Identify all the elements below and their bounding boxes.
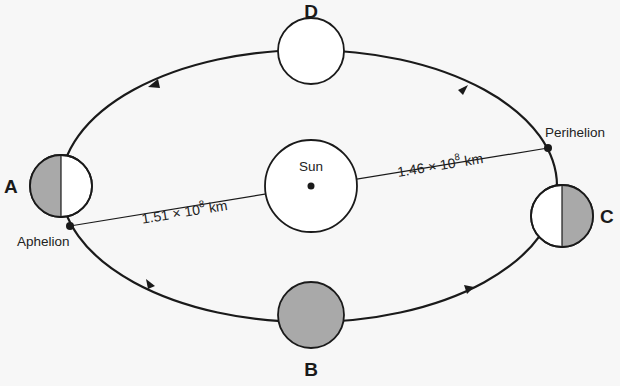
svg-text:1.46 × 108 km: 1.46 × 108 km [396, 147, 485, 180]
perihelion-distance-label: 1.46 × 108 km [396, 147, 485, 180]
svg-text:1.51 × 108 km: 1.51 × 108 km [140, 194, 229, 227]
perihelion-dot [544, 144, 552, 152]
label-b: B [304, 359, 318, 380]
orbit-diagram: Sun A C D B Aphelion Perihelion 1.51 × 1… [0, 0, 620, 386]
label-d: D [304, 1, 318, 22]
planet-d [278, 18, 344, 84]
perihelion-label: Perihelion [545, 125, 605, 140]
perihelion-distance-base: 1.46 × 10 [396, 155, 457, 180]
planet-b [278, 282, 344, 348]
aphelion-distance-base: 1.51 × 10 [141, 201, 202, 226]
planet-c [531, 185, 593, 247]
label-a: A [4, 176, 18, 197]
sun-center-dot [308, 183, 315, 190]
label-c: C [600, 206, 614, 227]
arrow-icon-top-right [458, 85, 468, 95]
sun-label: Sun [299, 159, 323, 174]
aphelion-distance-label: 1.51 × 108 km [140, 194, 229, 227]
planet-a [30, 155, 92, 217]
aphelion-dot [66, 222, 74, 230]
aphelion-label: Aphelion [17, 234, 70, 249]
perihelion-distance-unit: km [459, 150, 484, 169]
aphelion-distance-unit: km [204, 197, 229, 216]
arrow-icon-bottom-left [146, 279, 155, 289]
